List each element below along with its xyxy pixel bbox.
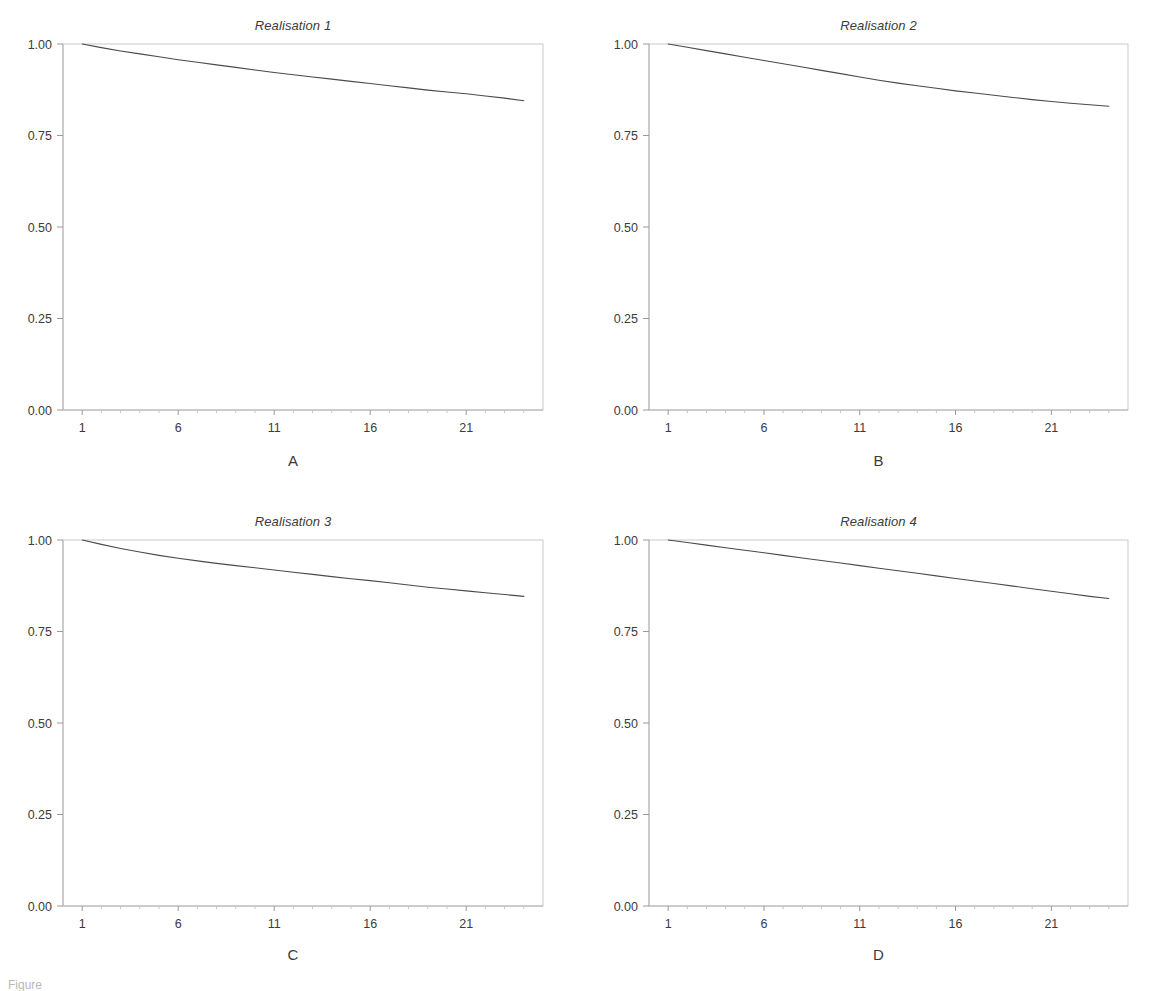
y-tick-label: 0.50 [614, 717, 638, 731]
y-tick-label: 0.25 [28, 312, 52, 326]
x-tick-label: 21 [459, 421, 473, 435]
x-tick-label: 1 [79, 421, 86, 435]
y-tick-label: 0.00 [614, 404, 638, 418]
data-curve [82, 44, 524, 101]
x-tick-label: 21 [1044, 421, 1058, 435]
x-tick-label: 16 [363, 917, 377, 931]
y-tick-label: 1.00 [614, 38, 638, 52]
x-tick-label: 6 [760, 917, 767, 931]
y-tick-label: 0.00 [28, 900, 52, 914]
plot-frame [63, 44, 543, 410]
plot-frame [649, 44, 1128, 410]
x-tick-label: 1 [665, 421, 672, 435]
panel-c: Realisation 3 0.000.250.500.751.00161116… [0, 496, 586, 991]
y-tick-label: 0.50 [28, 717, 52, 731]
data-curve [668, 540, 1109, 599]
x-tick-label: 1 [665, 917, 672, 931]
x-tick-label: 16 [949, 421, 963, 435]
x-tick-label: 11 [853, 917, 866, 931]
panel-c-plot: 0.000.250.500.751.0016111621 [0, 496, 586, 991]
plot-frame [649, 540, 1128, 906]
figure-caption: Figure [8, 978, 1108, 991]
x-tick-label: 11 [268, 421, 281, 435]
x-tick-label: 21 [1044, 917, 1058, 931]
y-tick-label: 1.00 [28, 534, 52, 548]
y-tick-label: 0.75 [614, 129, 638, 143]
panel-d-plot: 0.000.250.500.751.0016111621 [586, 496, 1171, 991]
y-tick-label: 0.50 [614, 221, 638, 235]
y-tick-label: 0.75 [28, 129, 52, 143]
panel-a-letter: A [0, 452, 586, 469]
x-tick-label: 11 [853, 421, 866, 435]
x-tick-label: 21 [459, 917, 473, 931]
y-tick-label: 0.75 [28, 625, 52, 639]
y-tick-label: 1.00 [614, 534, 638, 548]
y-tick-label: 1.00 [28, 38, 52, 52]
panel-a: Realisation 1 0.000.250.500.751.00161116… [0, 0, 586, 496]
data-curve [668, 44, 1109, 106]
data-curve [82, 540, 524, 596]
y-tick-label: 0.75 [614, 625, 638, 639]
plot-frame [63, 540, 543, 906]
x-tick-label: 6 [760, 421, 767, 435]
panel-c-letter: C [0, 946, 586, 963]
x-tick-label: 1 [79, 917, 86, 931]
x-tick-label: 6 [175, 421, 182, 435]
panel-d-letter: D [586, 946, 1171, 963]
y-tick-label: 0.50 [28, 221, 52, 235]
x-tick-label: 16 [949, 917, 963, 931]
panel-a-plot: 0.000.250.500.751.0016111621 [0, 0, 586, 496]
panel-b-plot: 0.000.250.500.751.0016111621 [586, 0, 1171, 496]
y-tick-label: 0.00 [614, 900, 638, 914]
figure-panel-grid: Realisation 1 0.000.250.500.751.00161116… [0, 0, 1171, 991]
x-tick-label: 6 [175, 917, 182, 931]
x-tick-label: 11 [268, 917, 281, 931]
y-tick-label: 0.25 [28, 808, 52, 822]
panel-d: Realisation 4 0.000.250.500.751.00161116… [586, 496, 1171, 991]
y-tick-label: 0.25 [614, 808, 638, 822]
panel-b-letter: B [586, 452, 1171, 469]
y-tick-label: 0.25 [614, 312, 638, 326]
panel-b: Realisation 2 0.000.250.500.751.00161116… [586, 0, 1171, 496]
x-tick-label: 16 [363, 421, 377, 435]
y-tick-label: 0.00 [28, 404, 52, 418]
